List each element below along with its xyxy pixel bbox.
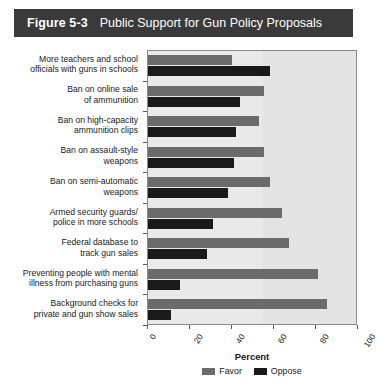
figure-number: Figure 5-3 xyxy=(27,16,88,30)
bar-oppose xyxy=(148,127,236,137)
legend-swatch-favor xyxy=(202,368,215,375)
bar-oppose xyxy=(148,280,180,290)
bar-oppose xyxy=(148,219,213,229)
category-label-line: Ban on assault-style xyxy=(0,145,138,156)
category-label: Ban on semi-automaticweapons xyxy=(0,176,138,197)
plot-area xyxy=(147,50,357,325)
category-label-line: of ammunition xyxy=(0,95,138,106)
y-axis-tick xyxy=(143,81,147,82)
x-axis-tick-label: 0 xyxy=(147,332,158,341)
y-axis-tick xyxy=(143,233,147,234)
bar-favor xyxy=(148,55,232,65)
category-label: Background checks forprivate and gun sho… xyxy=(0,298,138,319)
y-axis-tick xyxy=(143,172,147,173)
bar-oppose xyxy=(148,97,240,107)
y-axis-tick xyxy=(143,203,147,204)
category-label-line: Background checks for xyxy=(0,298,138,309)
x-axis-tick xyxy=(273,325,274,329)
bar-favor xyxy=(148,299,327,309)
x-axis-tick-label: 40 xyxy=(233,332,246,345)
bar-favor xyxy=(148,177,270,187)
bar-oppose xyxy=(148,66,270,76)
category-label: Preventing people with mentalillness fro… xyxy=(0,268,138,289)
x-axis-title: Percent xyxy=(147,351,357,362)
bar-group xyxy=(148,112,356,143)
category-label-line: ammunition clips xyxy=(0,125,138,136)
bar-group xyxy=(148,143,356,174)
category-label-line: track gun sales xyxy=(0,248,138,259)
x-axis-tick xyxy=(315,325,316,329)
bar-favor xyxy=(148,116,259,126)
y-axis-tick xyxy=(143,142,147,143)
category-label-line: More teachers and school xyxy=(0,54,138,65)
x-axis-tick-label: 20 xyxy=(191,332,204,345)
category-label-line: Federal database to xyxy=(0,237,138,248)
x-axis-tick-label: 60 xyxy=(275,332,288,345)
category-label-line: officials with guns in schools xyxy=(0,64,138,75)
figure-banner: Figure 5-3 Public Support for Gun Policy… xyxy=(14,9,353,37)
category-axis-labels: More teachers and schoolofficials with g… xyxy=(0,50,143,325)
bar-favor xyxy=(148,269,318,279)
legend-label: Favor xyxy=(219,366,242,376)
category-label-line: police in more schools xyxy=(0,217,138,228)
category-label-line: Ban on high-capacity xyxy=(0,115,138,126)
category-label-line: Ban on online sale xyxy=(0,84,138,95)
bar-group xyxy=(148,295,356,325)
bar-oppose xyxy=(148,310,171,320)
x-axis-tick xyxy=(147,325,148,329)
bar-favor xyxy=(148,238,289,248)
bar-favor xyxy=(148,86,264,96)
category-label: Ban on high-capacityammunition clips xyxy=(0,115,138,136)
legend-item-favor: Favor xyxy=(202,366,242,376)
figure-title: Public Support for Gun Policy Proposals xyxy=(100,16,322,30)
category-label: Ban on online saleof ammunition xyxy=(0,84,138,105)
bar-group xyxy=(148,51,356,82)
x-axis-tick xyxy=(231,325,232,329)
legend-swatch-oppose xyxy=(254,368,267,375)
category-label: More teachers and schoolofficials with g… xyxy=(0,54,138,75)
x-axis-tick xyxy=(189,325,190,329)
category-label-line: Preventing people with mental xyxy=(0,268,138,279)
bar-group xyxy=(148,173,356,204)
legend-label: Oppose xyxy=(271,366,302,376)
bar-group xyxy=(148,234,356,265)
x-axis-tick xyxy=(357,325,358,329)
y-axis-tick xyxy=(143,294,147,295)
category-label-line: Ban on semi-automatic xyxy=(0,176,138,187)
chart-legend: FavorOppose xyxy=(147,366,357,376)
bar-group xyxy=(148,265,356,296)
bar-group xyxy=(148,82,356,113)
category-label-line: Armed security guards/ xyxy=(0,207,138,218)
category-label-line: weapons xyxy=(0,156,138,167)
category-label: Ban on assault-styleweapons xyxy=(0,145,138,166)
bar-oppose xyxy=(148,249,207,259)
bar-favor xyxy=(148,208,282,218)
bar-favor xyxy=(148,147,264,157)
category-label-line: illness from purchasing guns xyxy=(0,278,138,289)
y-axis-tick xyxy=(143,264,147,265)
category-label-line: private and gun show sales xyxy=(0,309,138,320)
x-axis-tick-label: 80 xyxy=(317,332,330,345)
bar-oppose xyxy=(148,188,228,198)
category-label-line: weapons xyxy=(0,187,138,198)
chart-area: More teachers and schoolofficials with g… xyxy=(0,44,367,382)
x-axis-tick-label: 100 xyxy=(362,332,377,349)
bar-group xyxy=(148,204,356,235)
bar-oppose xyxy=(148,158,234,168)
legend-item-oppose: Oppose xyxy=(254,366,302,376)
category-label: Federal database totrack gun sales xyxy=(0,237,138,258)
category-label: Armed security guards/police in more sch… xyxy=(0,207,138,228)
y-axis-tick xyxy=(143,111,147,112)
